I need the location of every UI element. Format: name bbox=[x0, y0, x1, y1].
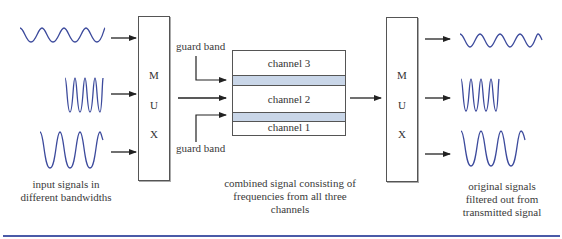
output-caption-line-2: filtered out from bbox=[452, 193, 552, 206]
input-wave-low-frequency-icon bbox=[20, 28, 105, 42]
demultiplexer-box: M U X bbox=[386, 17, 418, 182]
output-wave-high-frequency-icon bbox=[461, 79, 499, 111]
combined-signal-band: channel 3 channel 2 channel 1 bbox=[232, 50, 346, 136]
multiplexer-box: M U X bbox=[138, 16, 170, 181]
guard-band-upper bbox=[233, 75, 345, 86]
mux-letter-m: M bbox=[139, 69, 169, 81]
demux-letter-x: X bbox=[387, 128, 417, 140]
guard-band-top-pointer bbox=[196, 56, 226, 80]
combined-caption-line-1: combined signal consisting of bbox=[206, 177, 374, 190]
output-wave-low-frequency-icon bbox=[460, 34, 542, 47]
demux-letter-m: M bbox=[387, 69, 417, 81]
combined-caption-line-2: frequencies from all three bbox=[206, 190, 374, 203]
output-caption-line-3: transmitted signal bbox=[452, 206, 552, 219]
channel-2-label: channel 2 bbox=[233, 93, 345, 105]
input-wave-high-frequency-icon bbox=[65, 78, 103, 112]
output-caption-line-1: original signals bbox=[452, 180, 552, 193]
input-caption-line-2: different bandwidths bbox=[10, 191, 122, 204]
guard-band-bottom-pointer bbox=[196, 115, 226, 142]
input-wave-mid-frequency-icon bbox=[40, 132, 103, 168]
mux-letter-x: X bbox=[139, 128, 169, 140]
guard-band-top-label: guard band bbox=[176, 40, 225, 53]
input-caption: input signals in different bandwidths bbox=[10, 178, 122, 204]
demux-letter-u: U bbox=[387, 99, 417, 111]
fdm-diagram: M U X M U X channel 3 channel 2 channel … bbox=[0, 0, 562, 239]
combined-caption-line-3: channels bbox=[206, 203, 374, 216]
combined-caption: combined signal consisting of frequencie… bbox=[206, 177, 374, 216]
output-wave-mid-frequency-icon bbox=[461, 131, 525, 166]
channel-1-label: channel 1 bbox=[233, 121, 345, 133]
guard-band-bottom-label: guard band bbox=[176, 142, 225, 155]
input-caption-line-1: input signals in bbox=[10, 178, 122, 191]
mux-letter-u: U bbox=[139, 99, 169, 111]
channel-3-label: channel 3 bbox=[233, 57, 345, 69]
output-caption: original signals filtered out from trans… bbox=[452, 180, 552, 219]
